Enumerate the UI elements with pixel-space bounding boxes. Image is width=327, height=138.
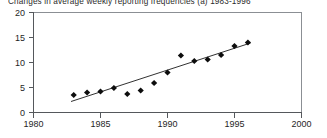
trend-line [71,43,251,102]
data-point [84,89,90,95]
chart-figure: Changes in average weekly reporting freq… [0,0,327,138]
y-tick-label-20: 20 [15,8,25,18]
data-point [218,52,224,58]
chart-plot-area: 20 15 10 5 0 1980 1985 1990 1995 2000 [0,0,327,138]
y-axis-ticks [29,13,34,113]
data-point-group [71,39,251,98]
data-point [151,80,157,86]
y-tick-label-5: 5 [20,83,25,93]
x-tick-label-2000: 2000 [291,119,311,129]
data-point [138,87,144,93]
data-point [97,88,103,94]
data-point [231,43,237,49]
y-tick-label-0: 0 [20,108,25,118]
y-tick-label-10: 10 [15,58,25,68]
y-axis-labels: 20 15 10 5 0 [15,8,25,118]
x-tick-label-1985: 1985 [90,119,110,129]
data-point [71,92,77,98]
x-tick-label-1990: 1990 [157,119,177,129]
y-tick-label-15: 15 [15,33,25,43]
data-point [191,58,197,64]
x-tick-label-1980: 1980 [23,119,43,129]
data-point [124,91,130,97]
x-axis-labels: 1980 1985 1990 1995 2000 [23,119,311,129]
x-tick-label-1995: 1995 [224,119,244,129]
data-point [111,85,117,91]
data-point [178,52,184,58]
x-axis-ticks [34,113,302,118]
